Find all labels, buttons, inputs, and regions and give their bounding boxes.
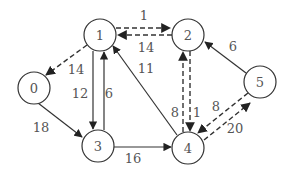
edge-weight: 11 (138, 61, 155, 76)
edge-weight: 16 (125, 151, 142, 166)
edge-4-to-1: 11 (113, 46, 177, 135)
node-4: 4 (172, 132, 204, 164)
edge-weight: 1 (140, 8, 148, 23)
edge-weight: 18 (33, 120, 50, 135)
node-label: 2 (184, 28, 192, 43)
edge-4-to-2: 8 (171, 52, 183, 132)
node-label: 1 (96, 28, 104, 43)
node-label: 0 (30, 81, 38, 96)
edge-3-to-4: 16 (114, 147, 171, 166)
edge-weight: 8 (171, 105, 179, 120)
edge-weight: 6 (229, 39, 237, 54)
edge-weight: 12 (72, 86, 89, 101)
node-3: 3 (82, 130, 114, 162)
node-1: 1 (84, 19, 116, 51)
edge-weight: 20 (227, 121, 244, 136)
edge-3-to-1: 6 (104, 52, 113, 130)
node-0: 0 (18, 72, 50, 104)
edge-2-to-1: 14 (118, 35, 172, 55)
edge-weight: 1 (193, 105, 201, 120)
edge-2-to-4: 1 (190, 51, 201, 131)
node-label: 3 (94, 139, 102, 154)
node-2: 2 (172, 19, 204, 51)
edge-weight: 14 (68, 62, 85, 77)
edge-weight: 14 (138, 40, 155, 55)
weighted-directed-graph: 1 14 14 12 6 18 11 16 8 1 (0, 0, 294, 174)
node-label: 5 (256, 75, 264, 90)
edge-weight: 8 (212, 99, 220, 114)
node-5: 5 (244, 66, 276, 98)
edge-weight: 6 (105, 86, 113, 101)
edge-5-to-2: 6 (205, 39, 246, 74)
edge-1-to-0: 14 (46, 45, 87, 77)
node-label: 4 (184, 141, 192, 156)
edge-1-to-2: 1 (116, 8, 170, 29)
edge-0-to-3: 18 (33, 103, 82, 137)
